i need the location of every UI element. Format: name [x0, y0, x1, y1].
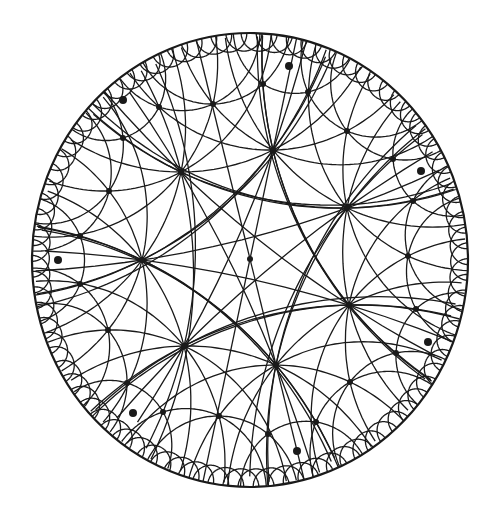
- marked-point: [285, 62, 293, 70]
- geodesic: [57, 123, 83, 157]
- tiling-vertex: [124, 380, 130, 386]
- tiling-vertex: [393, 350, 399, 356]
- geodesic: [379, 80, 409, 110]
- geodesic: [268, 126, 416, 482]
- tiling-vertex: [120, 135, 126, 141]
- tiling-vertex: [305, 89, 311, 95]
- geodesic: [345, 178, 450, 441]
- marked-point: [119, 96, 127, 104]
- tiling-vertex: [77, 281, 83, 287]
- tiling-vertex: [273, 362, 279, 368]
- tiling-vertex: [247, 256, 253, 262]
- diagram-canvas: [0, 0, 500, 521]
- tiling-vertex: [346, 302, 352, 308]
- marked-point: [54, 256, 62, 264]
- marked-point: [424, 338, 432, 346]
- tiling-vertex: [156, 104, 162, 110]
- tiling-vertex: [344, 128, 350, 134]
- tiling-vertex: [105, 327, 111, 333]
- geodesic: [340, 439, 373, 466]
- geodesic: [92, 79, 123, 109]
- tiling-vertex: [413, 306, 419, 312]
- tiling-vertex: [181, 343, 187, 349]
- tiling-vertex: [390, 156, 396, 162]
- geodesic: [36, 281, 225, 483]
- marked-point: [129, 409, 137, 417]
- geodesic: [310, 371, 432, 476]
- tiling-vertex: [270, 147, 276, 153]
- geodesic: [343, 102, 408, 411]
- tiling-vertex: [210, 101, 216, 107]
- geodesic: [365, 422, 396, 451]
- geodesic: [353, 431, 385, 459]
- tiling-vertex: [160, 409, 166, 415]
- geodesic: [36, 170, 440, 271]
- tiling-vertex: [77, 233, 83, 239]
- tiling-vertex: [410, 198, 416, 204]
- geodesic: [368, 71, 399, 100]
- geodesic: [146, 64, 195, 448]
- tiling-vertex: [178, 169, 184, 175]
- geodesic: [333, 351, 446, 466]
- geodesic: [241, 421, 363, 486]
- geodesic: [377, 412, 408, 442]
- tiling-vertex: [260, 81, 266, 87]
- tiling-vertex: [265, 431, 271, 437]
- tiling-vertex: [344, 205, 350, 211]
- geodesic: [82, 88, 111, 119]
- poincare-disk-tiling: [0, 0, 500, 521]
- tiling-vertex: [139, 257, 145, 263]
- tiling-vertex: [347, 379, 353, 385]
- tiling-vertex: [313, 419, 319, 425]
- marked-point: [417, 167, 425, 175]
- tiling-vertex: [216, 413, 222, 419]
- marked-point: [293, 447, 301, 455]
- tiling-vertex: [405, 253, 411, 259]
- tiling-vertex: [106, 188, 112, 194]
